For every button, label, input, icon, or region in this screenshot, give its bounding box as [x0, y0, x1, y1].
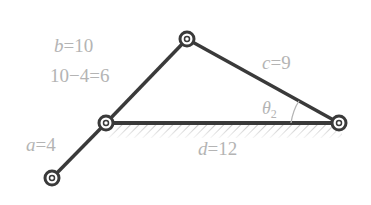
link-a [52, 123, 106, 178]
label-d-eq: =12 [208, 138, 238, 159]
label-b-var: b [54, 35, 64, 56]
theta2-arc [291, 101, 299, 123]
four-bar-linkage-diagram [0, 0, 371, 205]
label-d: d=12 [198, 139, 237, 158]
joint-left [99, 116, 113, 130]
label-d-var: d [198, 138, 208, 159]
label-theta-sub: 2 [271, 107, 277, 121]
label-theta-symbol: θ [262, 98, 271, 118]
joint-bottom [45, 171, 59, 185]
joint-top [180, 32, 194, 46]
label-b: b=10 [54, 36, 93, 55]
ground-hatching [108, 125, 342, 138]
label-a-eq: =4 [36, 134, 56, 155]
link-b [106, 39, 187, 123]
label-diff: 10−4=6 [50, 66, 109, 85]
label-a: a=4 [26, 135, 56, 154]
label-b-eq: =10 [64, 35, 94, 56]
label-c-eq: =9 [270, 52, 290, 73]
joint-right [332, 116, 346, 130]
label-theta2: θ2 [262, 99, 277, 120]
label-a-var: a [26, 134, 36, 155]
label-c: c=9 [262, 53, 291, 72]
